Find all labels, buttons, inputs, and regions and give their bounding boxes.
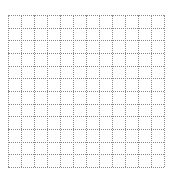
grid-horizontal-line bbox=[8, 104, 164, 105]
grid-horizontal-line bbox=[8, 129, 164, 130]
grid-horizontal-line bbox=[8, 66, 164, 67]
grid-horizontal-line bbox=[8, 142, 164, 143]
grid-horizontal-line bbox=[8, 91, 164, 92]
grid-horizontal-line bbox=[8, 78, 164, 79]
grid-horizontal-line bbox=[8, 53, 164, 54]
grid-horizontal-line bbox=[8, 40, 164, 41]
grid-vertical-line bbox=[164, 15, 165, 167]
grid-horizontal-line bbox=[8, 116, 164, 117]
grid-horizontal-line bbox=[8, 28, 164, 29]
grid-horizontal-line bbox=[8, 154, 164, 155]
grid-horizontal-line bbox=[8, 167, 164, 168]
grid-horizontal-line bbox=[8, 15, 164, 16]
dotted-grid bbox=[8, 15, 164, 167]
